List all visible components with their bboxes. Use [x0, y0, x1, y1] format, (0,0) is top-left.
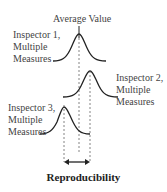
reproducibility-diagram: Average Value Inspector 1, Multiple Meas…	[0, 0, 167, 192]
label-line: Measures	[8, 126, 55, 138]
label-line: Inspector 3,	[8, 102, 55, 114]
label-line: Multiple	[13, 41, 60, 53]
label-line: Multiple	[8, 114, 55, 126]
label-line: Inspector 2,	[116, 72, 163, 84]
inspector-1-label: Inspector 1, Multiple Measures	[13, 29, 60, 65]
arrow-right-head-icon	[85, 159, 90, 165]
arrow-left-head-icon	[64, 159, 69, 165]
label-line: Multiple	[116, 84, 163, 96]
average-value-label: Average Value	[53, 13, 111, 25]
label-line: Inspector 1,	[13, 29, 60, 41]
inspector-3-label: Inspector 3, Multiple Measures	[8, 102, 55, 138]
label-line: Measures	[116, 96, 163, 108]
distribution-curve-inspector-1	[53, 34, 106, 61]
distribution-curve-inspector-2	[63, 71, 118, 97]
diagram-title: Reproducibility	[0, 171, 167, 183]
label-line: Measures	[13, 53, 60, 65]
inspector-2-label: Inspector 2, Multiple Measures	[116, 72, 163, 108]
